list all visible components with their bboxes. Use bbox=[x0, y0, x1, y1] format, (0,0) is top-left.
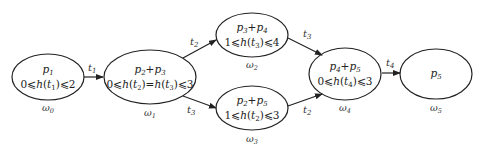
edge-w2-w4 bbox=[288, 38, 322, 55]
node-w2-caption: ω2 bbox=[246, 59, 258, 72]
edge-label-t2-upper: t2 bbox=[190, 36, 199, 49]
node-w3-caption: ω3 bbox=[246, 133, 258, 146]
node-w1-caption: ω1 bbox=[144, 107, 156, 120]
edge-label-t1: t1 bbox=[88, 62, 97, 75]
edge-w1-w2 bbox=[183, 40, 216, 58]
node-w5-caption: ω5 bbox=[430, 102, 442, 115]
node-w3: p2+p5 1⩽h(t2)⩽3 ω3 bbox=[216, 86, 288, 146]
node-w1-constraint: 0⩽h(t2)=h(t3)⩽3 bbox=[107, 78, 194, 92]
node-w2-constraint: 1⩽h(t3)⩽4 bbox=[224, 36, 279, 50]
node-w1-title: p2+p3 bbox=[134, 63, 166, 77]
node-w2-title: p3+p4 bbox=[236, 21, 267, 35]
node-w0: p1 0⩽h(t1)⩽2 ω0 bbox=[12, 54, 84, 115]
node-w4: p4+p5 0⩽h(t4)⩽3 ω4 bbox=[309, 48, 381, 115]
node-w3-constraint: 1⩽h(t2)⩽3 bbox=[224, 109, 279, 123]
edge-label-t3-upper: t3 bbox=[303, 28, 312, 41]
node-w0-caption: ω0 bbox=[42, 102, 54, 115]
edge-label-t2-lower: t2 bbox=[303, 104, 312, 117]
node-w4-title: p4+p5 bbox=[329, 60, 361, 74]
edge-label-t4: t4 bbox=[386, 57, 395, 70]
node-w0-title: p1 bbox=[42, 63, 53, 77]
node-w1: p2+p3 0⩽h(t2)=h(t3)⩽3 ω1 bbox=[104, 50, 196, 120]
node-w2: p3+p4 1⩽h(t3)⩽4 ω2 bbox=[216, 13, 288, 72]
node-w5: p5 ω5 bbox=[400, 49, 472, 115]
node-w5-title: p5 bbox=[430, 67, 442, 81]
node-w0-constraint: 0⩽h(t1)⩽2 bbox=[20, 78, 75, 92]
node-w3-title: p2+p5 bbox=[236, 94, 268, 108]
node-w4-constraint: 0⩽h(t4)⩽3 bbox=[317, 75, 372, 89]
node-w4-caption: ω4 bbox=[339, 102, 351, 115]
state-transition-diagram: t1 t2 t3 t3 t2 t4 p1 0⩽h(t1)⩽2 ω0 p2+p3 … bbox=[0, 0, 484, 153]
edge-label-t3-lower: t3 bbox=[187, 104, 196, 117]
